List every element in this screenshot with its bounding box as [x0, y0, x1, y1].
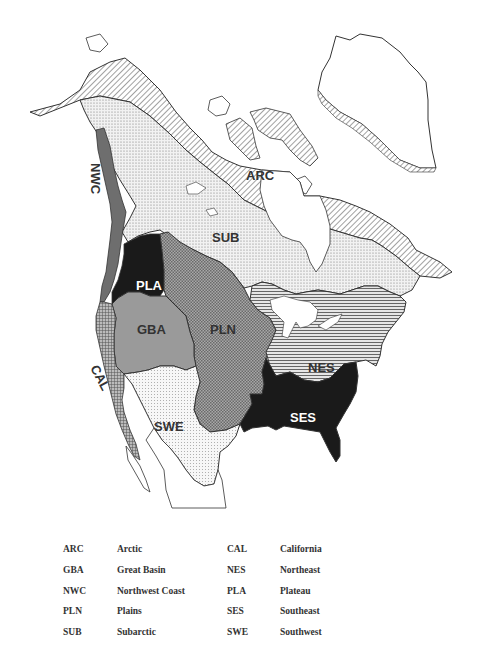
label-SUB: SUB [212, 230, 239, 245]
legend-name: Plateau [280, 586, 311, 596]
legend-name: Northeast [280, 565, 320, 575]
legend-name: Southwest [280, 627, 322, 637]
legend-code: NWC [63, 586, 86, 596]
arctic-island-1 [250, 108, 318, 166]
label-GBA: GBA [137, 322, 167, 337]
legend-code: SWE [227, 627, 248, 637]
label-PLA: PLA [136, 278, 163, 293]
legend-code: SUB [63, 627, 81, 637]
legend-name: Plains [117, 606, 142, 616]
arctic-island-5 [86, 34, 108, 52]
label-SES: SES [290, 410, 316, 425]
legend-code: PLN [63, 606, 82, 616]
legend-name: Arctic [117, 544, 142, 554]
label-ARC: ARC [246, 168, 275, 183]
legend-name: Southeast [280, 606, 320, 616]
arctic-island-3 [226, 118, 260, 160]
legend-name: Northwest Coast [117, 586, 185, 596]
legend-code: ARC [63, 544, 84, 554]
label-NES: NES [308, 360, 335, 375]
label-SWE: SWE [154, 419, 184, 434]
label-NWC: NWC [88, 163, 103, 195]
arctic-island-2 [208, 96, 230, 116]
legend-code: SES [227, 606, 244, 616]
legend-name: Great Basin [117, 565, 166, 575]
culture-areas-map: ARC SUB NWC PLA GBA PLN CAL SWE NES SES [0, 0, 484, 540]
label-PLN: PLN [210, 322, 236, 337]
legend-name: Subarctic [117, 627, 156, 637]
legend: ARC Arctic CAL California GBA Great Basi… [0, 540, 484, 668]
legend-code: PLA [227, 586, 246, 596]
legend-name: California [280, 544, 322, 554]
legend-code: CAL [227, 544, 247, 554]
legend-code: GBA [63, 565, 84, 575]
legend-code: NES [227, 565, 245, 575]
